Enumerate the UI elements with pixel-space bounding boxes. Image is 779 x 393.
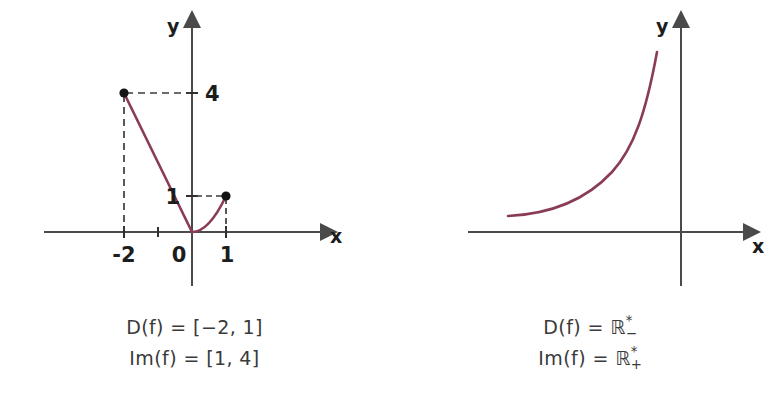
blackboard-r-image: ℝ*+ [615,343,630,374]
tick-label-y-1: 1 [165,185,180,209]
y-axis-label: y [167,15,180,37]
tick-label-y-4: 4 [205,82,220,106]
curve-exponential [508,52,657,216]
plot-right: y x [390,0,779,300]
caption-domain-right: D(f) = ℝ*− [390,312,779,343]
curve-parabola [124,93,226,232]
caption-right: D(f) = ℝ*− Im(f) = ℝ*+ [390,312,779,374]
plot-left: y x -2 0 1 1 4 [0,0,389,300]
tick-label-x-1: 1 [220,243,235,267]
blackboard-r-domain: ℝ*− [610,312,625,343]
x-axis-label: x [752,235,764,257]
endpoint-1-1 [221,191,230,200]
caption-left: D(f) = [−2, 1] Im(f) = [1, 4] [0,312,389,374]
caption-image-prefix: Im(f) = [538,347,615,369]
caption-image-left: Im(f) = [1, 4] [0,343,389,374]
blackboard-r-image-sign: + [631,349,643,380]
tick-label-0: 0 [172,243,187,267]
blackboard-r-image-symbol: ℝ [615,347,630,369]
caption-domain-prefix: D(f) = [543,316,610,338]
tick-label-minus2: -2 [112,243,135,267]
x-axis-label: x [330,225,342,247]
y-axis-label: y [656,15,669,37]
caption-domain-left: D(f) = [−2, 1] [0,312,389,343]
figure-parabola: y x -2 0 1 1 4 [0,0,389,300]
figure-exponential: y x [390,0,779,300]
endpoint-minus2-4 [119,88,128,97]
blackboard-r-domain-symbol: ℝ [610,316,625,338]
caption-image-right: Im(f) = ℝ*+ [390,343,779,374]
